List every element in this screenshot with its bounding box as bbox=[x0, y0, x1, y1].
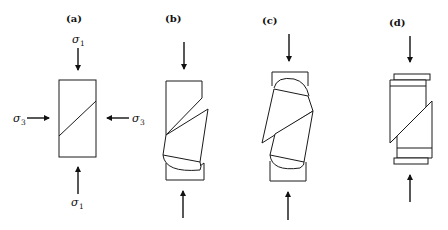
panel-a: (a) σ 1 σ 3 σ 3 σ 1 bbox=[13, 13, 145, 211]
lower-platen-c bbox=[270, 161, 306, 181]
rock-joint-shear-diagram: (a) σ 1 σ 3 σ 3 σ 1 (b) bbox=[0, 0, 448, 230]
panel-label-a: (a) bbox=[66, 13, 82, 24]
lower-platen-b bbox=[166, 163, 204, 180]
svg-text:1: 1 bbox=[79, 202, 84, 211]
svg-text:1: 1 bbox=[80, 39, 85, 48]
svg-text:σ: σ bbox=[72, 33, 80, 46]
panel-label-b: (b) bbox=[165, 13, 181, 24]
sigma1-top-label: σ 1 bbox=[72, 33, 85, 48]
panel-c: (c) bbox=[262, 15, 313, 220]
svg-text:3: 3 bbox=[21, 118, 26, 127]
panel-label-c: (c) bbox=[262, 15, 278, 26]
svg-text:σ: σ bbox=[71, 196, 79, 209]
upper-platen-d bbox=[394, 74, 430, 80]
sigma3-right-label: σ 3 bbox=[132, 112, 145, 127]
svg-text:3: 3 bbox=[140, 118, 145, 127]
lower-platen-d bbox=[394, 158, 428, 164]
sigma1-bottom-label: σ 1 bbox=[71, 196, 84, 211]
sigma3-left-label: σ 3 bbox=[13, 112, 26, 127]
svg-text:σ: σ bbox=[13, 112, 21, 125]
svg-text:σ: σ bbox=[132, 112, 140, 125]
panel-b: (b) bbox=[163, 13, 208, 218]
panel-d: (d) bbox=[389, 17, 432, 202]
panel-label-d: (d) bbox=[389, 17, 405, 28]
